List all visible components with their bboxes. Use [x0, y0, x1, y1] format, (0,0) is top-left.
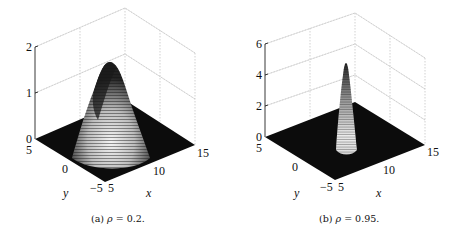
- x-tick-5: 5: [108, 182, 114, 194]
- panel-b: 6 4 2 0 5 0 −5 5 10 15 y x (b) ρ = 0.95.: [228, 0, 456, 237]
- x-axis-label: x: [146, 186, 151, 201]
- caption-prefix: (a): [91, 213, 104, 224]
- x-axis-label: x: [376, 186, 381, 201]
- x-tick-10: 10: [153, 165, 165, 177]
- x-tick-5: 5: [338, 181, 344, 193]
- x-tick-10: 10: [383, 164, 395, 176]
- y-tick-neg5: −5: [320, 181, 333, 193]
- y-tick-neg5: −5: [90, 182, 103, 194]
- y-axis-label: y: [63, 186, 68, 201]
- surface-plot-a: [0, 0, 228, 237]
- surface-plot-b: [228, 0, 456, 237]
- caption-value: = 0.95.: [341, 213, 379, 224]
- x-tick-15: 15: [197, 147, 209, 159]
- caption-b: (b) ρ = 0.95.: [319, 213, 379, 224]
- y-tick-0: 0: [292, 161, 298, 173]
- caption-a: (a) ρ = 0.2.: [91, 213, 145, 224]
- z-tick-2: 2: [256, 100, 262, 112]
- caption-prefix: (b): [319, 213, 333, 224]
- x-tick-15: 15: [427, 146, 439, 158]
- z-tick-6: 6: [256, 38, 262, 50]
- panel-a: 2 1 0 5 0 −5 5 10 15 y x (a) ρ = 0.2.: [0, 0, 228, 237]
- z-tick-1: 1: [26, 87, 32, 99]
- z-tick-2: 2: [26, 41, 32, 53]
- y-axis-label: y: [294, 186, 299, 201]
- z-tick-4: 4: [256, 69, 262, 81]
- caption-value: = 0.2.: [113, 213, 145, 224]
- y-tick-5: 5: [26, 144, 32, 156]
- y-tick-5: 5: [256, 142, 262, 154]
- y-tick-0: 0: [62, 163, 68, 175]
